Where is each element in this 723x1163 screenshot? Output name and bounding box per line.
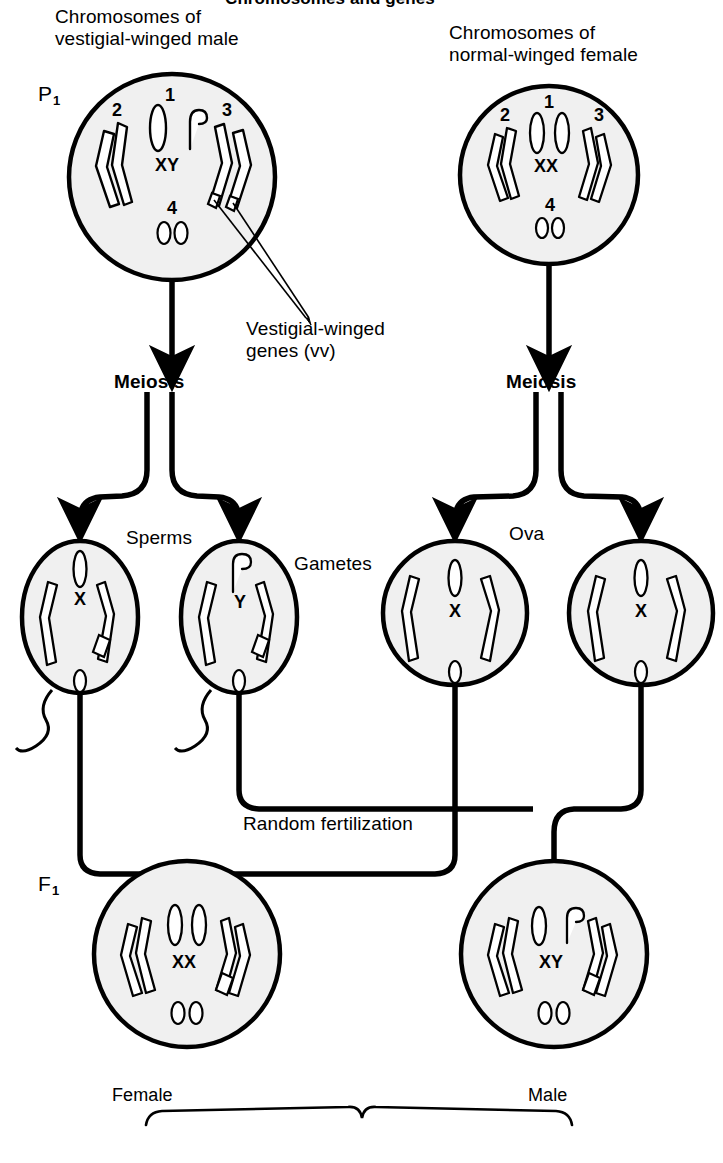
sperm-x-sex-chromosome: X bbox=[74, 589, 86, 610]
p1-male-pair-3-number: 3 bbox=[222, 100, 232, 121]
meiosis-label-left: Meiosis bbox=[114, 371, 184, 393]
stage-label-f1-sub: 1 bbox=[52, 883, 59, 898]
f1-female-label: Female bbox=[112, 1085, 173, 1106]
female-parent-header: Chromosomes of normal-winged female bbox=[449, 22, 638, 66]
ovum-1-sex-chromosome: X bbox=[449, 601, 461, 622]
stage-label-p1: P1 bbox=[38, 82, 59, 106]
meiosis-split-right bbox=[455, 392, 641, 520]
gametes-label: Gametes bbox=[294, 553, 372, 575]
stage-label-p1-text: P bbox=[38, 82, 52, 105]
f1-male-sex-chromosomes: XY bbox=[539, 952, 563, 973]
stage-label-f1-text: F bbox=[38, 872, 51, 895]
male-parent-header: Chromosomes of vestigial-winged male bbox=[55, 6, 239, 50]
p1-female-pair-4-number: 4 bbox=[545, 195, 555, 216]
p1-female-pair-3-number: 3 bbox=[594, 105, 604, 126]
random-fertilization-label: Random fertilization bbox=[243, 813, 413, 835]
vestigial-gene-callout-label: Vestigial-winged genes (vv) bbox=[246, 318, 385, 362]
sperm-y-sex-chromosome: Y bbox=[234, 592, 246, 613]
meiosis-split-left bbox=[80, 392, 239, 520]
ovum-2-sex-chromosome: X bbox=[635, 601, 647, 622]
p1-male-pair-1-number: 1 bbox=[165, 85, 175, 106]
sperms-label: Sperms bbox=[126, 527, 192, 549]
f1-female-sex-chromosomes: XX bbox=[172, 952, 196, 973]
p1-male-pair-4-number: 4 bbox=[167, 198, 177, 219]
p1-female-sex-chromosomes: XX bbox=[534, 156, 558, 177]
stage-label-f1: F1 bbox=[38, 872, 58, 896]
diagram-canvas: Chromosomes and genes Chromosomes of ves… bbox=[0, 0, 723, 1163]
meiosis-label-right: Meiosis bbox=[506, 371, 576, 393]
diagram-title: Chromosomes and genes bbox=[225, 0, 435, 9]
stage-label-p1-sub: 1 bbox=[53, 93, 60, 108]
p1-female-pair-1-number: 1 bbox=[544, 92, 554, 113]
offspring-brace bbox=[146, 1107, 572, 1125]
fertilization-path-sperm-y bbox=[239, 694, 533, 809]
p1-male-sex-chromosomes: XY bbox=[155, 155, 179, 176]
p1-male-pair-2-number: 2 bbox=[112, 100, 122, 121]
ova-label: Ova bbox=[509, 523, 544, 545]
f1-male-label: Male bbox=[528, 1085, 567, 1106]
sperm-cell-y bbox=[175, 541, 297, 751]
genetics-diagram-svg bbox=[0, 0, 723, 1163]
p1-female-pair-2-number: 2 bbox=[500, 105, 510, 126]
sperm-cell-x bbox=[16, 541, 138, 751]
